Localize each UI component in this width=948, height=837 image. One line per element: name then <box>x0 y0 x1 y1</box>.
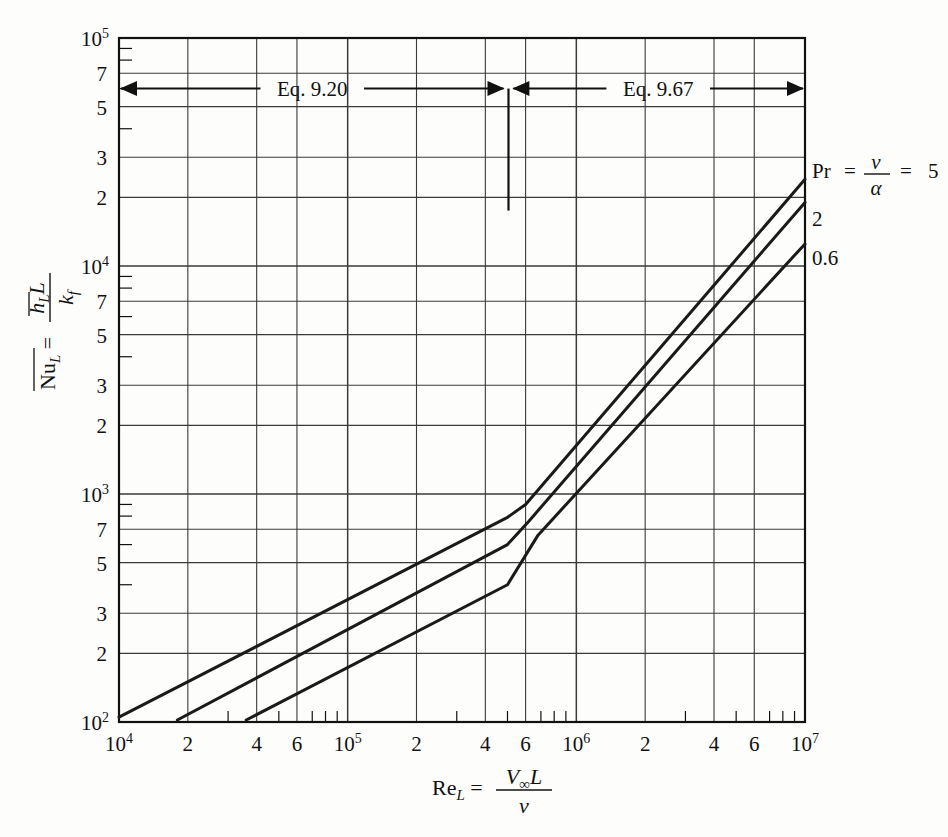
svg-text:kf: kf <box>53 289 81 305</box>
x-tick-label-minor: 6 <box>520 732 531 756</box>
curve-pr-2 <box>177 202 805 720</box>
annotation-label-eq-920: Eq. 9.20 <box>277 77 348 101</box>
legend-header: Pr = ν α = 5 <box>812 150 939 200</box>
y-tick-label-minor: 5 <box>97 552 108 576</box>
x-tick-label-minor: 4 <box>251 732 262 756</box>
chart-annotations: Eq. 9.20Eq. 9.67 <box>120 77 804 211</box>
x-title-sub: L <box>455 787 464 803</box>
y-tick-label-decade: 104 <box>81 254 109 279</box>
x-tick-label-minor: 6 <box>749 732 760 756</box>
y-tick-label-minor: 2 <box>97 642 108 666</box>
arrow-head <box>787 81 804 96</box>
log-log-chart: Eq. 9.20Eq. 9.67 104246105246106246107 1… <box>0 0 948 837</box>
x-tick-label-minor: 2 <box>183 732 194 756</box>
y-tick-label-minor: 3 <box>97 146 108 170</box>
y-tick-label-minor: 2 <box>97 414 108 438</box>
legend-value-pr2: 2 <box>812 207 823 231</box>
y-title-numerator: h <box>24 303 49 314</box>
legend-fraction: ν α <box>864 150 890 200</box>
y-axis-tick-labels: 102235710323571042357105 <box>81 26 109 735</box>
y-title-denominator-sub: f <box>65 289 81 295</box>
y-tick-label-decade: 105 <box>81 26 109 51</box>
legend-pr-label: Pr <box>812 159 831 183</box>
y-title-prefix: Nu <box>35 363 60 390</box>
y-tick-label-decade: 103 <box>81 482 109 507</box>
plot-frame <box>119 38 805 722</box>
data-curves <box>119 179 805 720</box>
grid-lines <box>119 38 805 722</box>
arrow-head <box>120 81 137 96</box>
x-tick-label-decade: 104 <box>105 731 133 756</box>
x-tick-label-minor: 6 <box>292 732 303 756</box>
annotation-label-eq-967: Eq. 9.67 <box>623 77 694 101</box>
y-tick-label-minor: 2 <box>97 186 108 210</box>
x-axis-title: ReL = V∞L ν <box>432 764 552 818</box>
legend-value-pr06: 0.6 <box>812 246 838 270</box>
x-tick-label-minor: 4 <box>709 732 720 756</box>
y-tick-label-minor: 5 <box>97 96 108 120</box>
y-tick-label-minor: 7 <box>97 290 108 314</box>
x-tick-label-minor: 4 <box>480 732 491 756</box>
legend-alpha: α <box>870 176 882 200</box>
arrow-head <box>487 81 504 96</box>
x-title-equals: = <box>470 775 482 800</box>
x-tick-label-minor: 2 <box>411 732 422 756</box>
y-tick-label-minor: 3 <box>97 374 108 398</box>
y-axis-title: NuL = hLL kf <box>24 273 81 391</box>
x-title-denominator: ν <box>519 793 529 818</box>
svg-text:hLL: hLL <box>24 282 52 314</box>
x-title-fraction: V∞L ν <box>496 764 552 818</box>
y-title-equals: = <box>35 337 60 349</box>
svg-text:ReL =: ReL = <box>432 775 483 803</box>
y-title-sub: L <box>47 355 63 364</box>
svg-text:V∞L: V∞L <box>506 764 542 792</box>
plot-border <box>119 38 805 722</box>
y-tick-label-minor: 3 <box>97 602 108 626</box>
x-axis-tick-labels: 104246105246106246107 <box>105 731 819 756</box>
y-tick-label-minor: 7 <box>97 62 108 86</box>
x-tick-label-decade: 105 <box>334 731 362 756</box>
figure-container: Eq. 9.20Eq. 9.67 104246105246106246107 1… <box>0 0 948 837</box>
x-title-numerator-tail: L <box>529 764 542 789</box>
x-tick-label-decade: 107 <box>791 731 819 756</box>
arrow-head <box>512 81 529 96</box>
x-tick-label-decade: 106 <box>562 731 590 756</box>
x-title-prefix: Re <box>432 775 456 800</box>
legend-value-pr5: 5 <box>928 159 939 183</box>
x-tick-label-minor: 2 <box>640 732 651 756</box>
curve-pr-5 <box>119 179 805 717</box>
y-title-numerator-tail: L <box>24 282 49 295</box>
legend-equals-1: = <box>844 159 856 183</box>
legend-nu: ν <box>871 150 881 174</box>
svg-text:NuL =: NuL = <box>35 337 63 390</box>
y-tick-label-minor: 7 <box>97 518 108 542</box>
y-title-fraction: hLL kf <box>24 273 81 322</box>
y-tick-label-minor: 5 <box>97 324 108 348</box>
svg-text:Pr: Pr <box>812 159 831 183</box>
legend-equals-2: = <box>900 159 912 183</box>
